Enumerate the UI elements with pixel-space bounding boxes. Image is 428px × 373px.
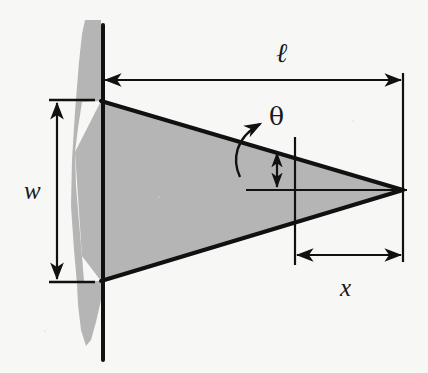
shaded-region-group [71,20,403,346]
angle-label: θ [269,104,284,129]
wedge-geometry-diagram [0,0,428,373]
width-label: w [24,178,41,203]
distance-label: x [340,275,351,300]
length-label: ℓ [276,39,287,66]
figure-container: ℓ θ w x [0,0,428,373]
